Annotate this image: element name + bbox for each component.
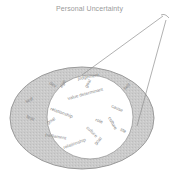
projection-line-left: [82, 16, 163, 75]
uncertainty-diagram: selffeardevegojudgementgoalselfvalue det…: [0, 0, 179, 179]
